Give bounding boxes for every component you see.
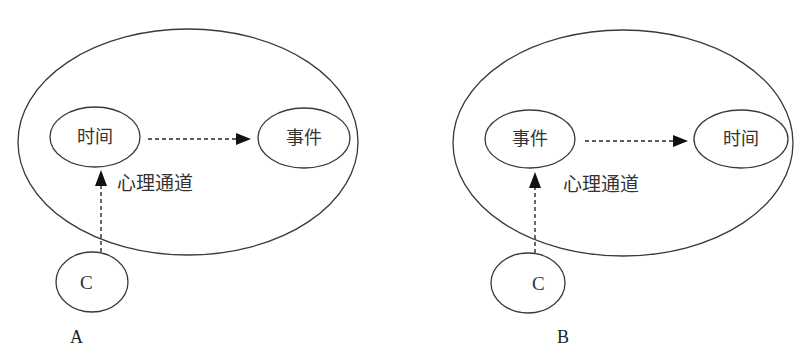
- node-time-a: 时间: [50, 107, 140, 167]
- diagram-canvas: 时间 事件 心理通道 C A 事件 时间: [0, 0, 808, 360]
- node-event-a: 事件: [258, 108, 350, 168]
- node-time-b: 时间: [694, 110, 788, 168]
- node-event-a-label: 事件: [286, 127, 322, 148]
- node-time-a-label: 时间: [77, 126, 113, 147]
- arrow-time-to-event-a: [148, 133, 251, 145]
- node-event-b: 事件: [485, 110, 575, 168]
- node-event-b-label: 事件: [512, 128, 548, 149]
- node-c-a: C: [56, 252, 128, 312]
- channel-label-a: 心理通道: [117, 172, 193, 194]
- diagram-a: 时间 事件 心理通道 C A: [18, 29, 358, 347]
- arrowhead-right-icon: [673, 135, 688, 147]
- node-c-b-label: C: [532, 273, 545, 294]
- node-c-a-label: C: [80, 272, 93, 293]
- panel-label-a: A: [70, 327, 83, 347]
- arrowhead-up-icon: [529, 172, 541, 188]
- channel-label-b: 心理通道: [563, 173, 639, 195]
- panel-label-b: B: [557, 327, 569, 347]
- arrowhead-right-icon: [236, 133, 251, 145]
- arrow-event-to-time-b: [585, 135, 688, 147]
- node-c-b: C: [491, 253, 565, 313]
- arrowhead-up-icon: [95, 170, 107, 186]
- node-time-b-label: 时间: [723, 128, 759, 149]
- diagram-b: 事件 时间 心理通道 C B: [453, 30, 793, 347]
- node-c-b-shape: [491, 253, 565, 313]
